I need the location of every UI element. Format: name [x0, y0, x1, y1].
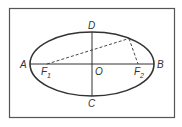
label-f2: F 2 [134, 66, 144, 79]
label-b: B [157, 59, 164, 70]
label-f1-sub: 1 [47, 72, 51, 79]
ellipse-diagram: A B D C O F 1 F 2 [0, 0, 182, 127]
label-f1: F 1 [41, 66, 51, 79]
label-o: O [95, 66, 103, 77]
label-a: A [19, 59, 27, 70]
label-c: C [88, 98, 96, 109]
label-f2-sub: 2 [139, 72, 144, 79]
focal-radius-f1 [47, 39, 129, 65]
label-d: D [88, 20, 95, 31]
